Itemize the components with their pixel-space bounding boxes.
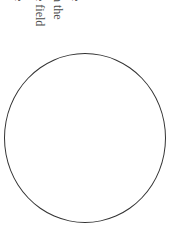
text-line-4: e: [13, 0, 25, 1]
text-line-1: e: [70, 0, 82, 1]
circle-figure: [4, 53, 166, 223]
rotated-text-block: e n the e field e: [0, 0, 169, 60]
text-line-3: e field: [34, 0, 46, 26]
text-line-2: n the: [52, 0, 64, 20]
